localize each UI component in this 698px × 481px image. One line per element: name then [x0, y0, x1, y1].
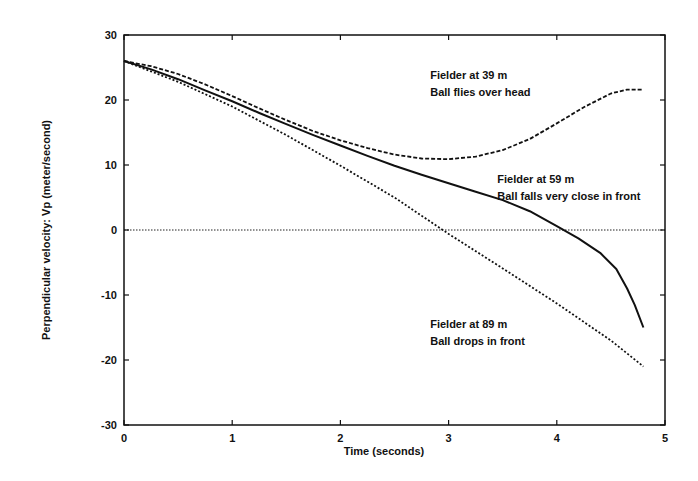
series-line-2 [124, 61, 643, 367]
curve-annotation: Ball drops in front [430, 335, 525, 347]
y-tick-label: -10 [101, 289, 117, 301]
series-line-0 [124, 61, 643, 159]
x-tick-label: 2 [337, 432, 343, 444]
curve-annotations: Fielder at 39 mBall flies over headField… [430, 69, 640, 346]
curve-annotation: Ball falls very close in front [497, 190, 640, 202]
velocity-chart: 0123453020100-10-20-30 Time (seconds) Pe… [0, 0, 698, 481]
y-tick-label: 20 [105, 94, 117, 106]
x-tick-label: 1 [229, 432, 235, 444]
x-axis-title: Time (seconds) [344, 445, 425, 457]
y-axis-title: Perpendicular velocity: Vp (meter/second… [40, 120, 52, 340]
plot-lines [124, 61, 665, 367]
curve-annotation: Ball flies over head [430, 86, 530, 98]
axis-tick-labels: 0123453020100-10-20-30 [101, 29, 668, 444]
y-tick-label: 0 [111, 224, 117, 236]
curve-annotation: Fielder at 59 m [497, 173, 574, 185]
x-tick-label: 3 [446, 432, 452, 444]
y-tick-label: 30 [105, 29, 117, 41]
x-tick-label: 4 [554, 432, 561, 444]
x-tick-label: 5 [662, 432, 668, 444]
y-tick-label: 10 [105, 159, 117, 171]
y-tick-label: -20 [101, 354, 117, 366]
curve-annotation: Fielder at 89 m [430, 318, 507, 330]
y-tick-label: -30 [101, 419, 117, 431]
x-tick-label: 0 [121, 432, 127, 444]
curve-annotation: Fielder at 39 m [430, 69, 507, 81]
